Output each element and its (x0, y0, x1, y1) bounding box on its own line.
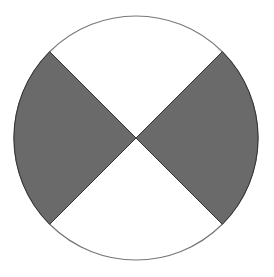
diagram-canvas (0, 0, 274, 277)
circle-diagram (0, 0, 274, 277)
